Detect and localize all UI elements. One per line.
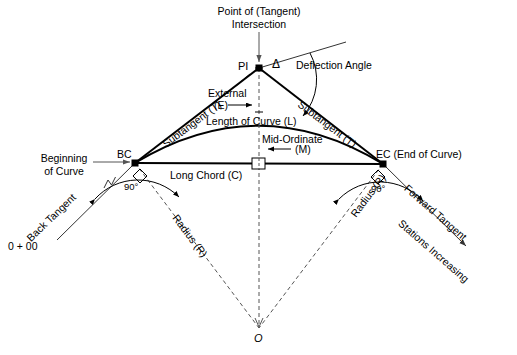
long-chord-label: Long Chord (C) (170, 169, 242, 182)
boc-line-1: Beginning (41, 152, 88, 164)
curve-diagram: Point of (Tangent) Intersection PI Δ Def… (0, 0, 517, 355)
point-of-intersection-label: Point of (Tangent) Intersection (194, 5, 324, 30)
point-marker-bc (132, 160, 139, 167)
poi-line-2: Intersection (232, 18, 286, 30)
curve-diagram-svg (0, 0, 517, 355)
length-of-curve-label: Length of Curve (L) (206, 115, 296, 128)
angle-left-label: 90° (124, 181, 138, 194)
boc-line-2: of Curve (44, 165, 84, 177)
point-marker-pi (256, 65, 263, 72)
pi-label: PI (238, 60, 248, 73)
deflection-angle-label: Deflection Angle (296, 59, 372, 72)
point-marker-ec (380, 161, 387, 168)
center-point-label: O (254, 332, 263, 345)
poi-line-1: Point of (Tangent) (218, 5, 301, 17)
delta-symbol-label: Δ (272, 58, 280, 71)
mid-ordinate-symbol-label: (M) (295, 143, 311, 156)
station-zero-label: 0 + 00 (8, 240, 38, 253)
right-angle-marker-midchord (252, 158, 265, 169)
mid-ordinate-word-label: Mid-Ordinate (262, 133, 323, 146)
external-word-label: External (208, 87, 247, 100)
beginning-of-curve-label: Beginning of Curve (33, 152, 95, 177)
ec-label: EC (End of Curve) (376, 148, 462, 161)
bc-label: BC (117, 148, 132, 161)
